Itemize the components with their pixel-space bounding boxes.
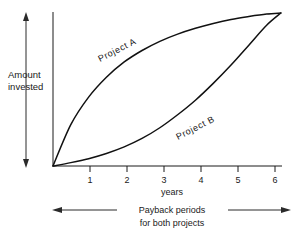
arrow-head-down [23,159,29,168]
x-tick-label-2: 2 [124,175,129,185]
arrow-head-up [23,12,29,21]
x-axis-ticks [90,166,275,172]
payback-span-right-arrow [228,207,291,213]
y-axis-label-line1: Amount [8,69,41,80]
x-tick-label-6: 6 [272,175,277,185]
x-tick-label-3: 3 [161,175,166,185]
x-axis-label: years [161,187,184,197]
x-tick-label-4: 4 [198,175,203,185]
arrow-head-left [52,207,62,213]
curve-project-b [53,13,281,166]
series-label-project-a: Project A [96,36,137,64]
series-label-project-b: Project B [174,114,216,142]
payback-period-chart: Amount invested 1 2 3 4 5 6 years Projec… [0,0,298,232]
x-tick-label-5: 5 [235,175,240,185]
figure-container: Amount invested 1 2 3 4 5 6 years Projec… [0,0,298,232]
payback-caption-line2: for both projects [140,218,205,228]
arrow-head-right [281,207,291,213]
payback-caption-line1: Payback periods [139,205,206,215]
curve-project-a [53,13,281,166]
payback-span-left-arrow [52,207,117,213]
x-tick-label-1: 1 [87,175,92,185]
y-axis-label-line2: invested [8,81,43,92]
